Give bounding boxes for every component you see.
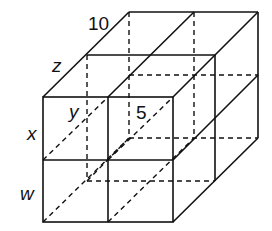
label-lower-height: w: [20, 183, 35, 204]
label-inner-number: 5: [136, 102, 147, 123]
label-depth-edge: z: [51, 55, 62, 76]
cube-diagram: 10 z y 5 x w: [0, 0, 272, 231]
label-upper-height: x: [26, 123, 38, 144]
label-inner-y: y: [67, 101, 80, 122]
label-top-edge: 10: [88, 13, 109, 34]
